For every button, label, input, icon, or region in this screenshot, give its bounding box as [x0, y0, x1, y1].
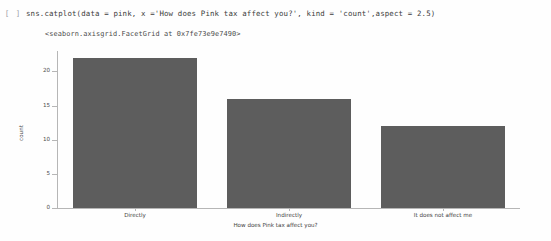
- x-axis-label-text: How does Pink tax affect you?: [0, 222, 551, 228]
- seaborn-catplot-figure: count 05101520 DirectlyIndirectlyIt does…: [0, 46, 551, 241]
- y-tick-label: 5: [8, 171, 50, 177]
- code-source-text: sns.catplot(data = pink, x ='How does Pi…: [26, 9, 435, 18]
- x-tick-label: Indirectly: [229, 212, 349, 218]
- code-input-line[interactable]: [ ] sns.catplot(data = pink, x ='How doe…: [0, 4, 435, 22]
- y-axis-label-text: count: [18, 113, 24, 153]
- notebook-output-cell: [ ] sns.catplot(data = pink, x ='How doe…: [0, 0, 551, 241]
- y-tick-label: 15: [8, 103, 50, 109]
- x-tick-mark: [443, 208, 444, 211]
- y-tick-mark: [52, 106, 57, 107]
- run-cell-button[interactable]: [ ]: [0, 9, 26, 18]
- x-tick-mark: [289, 208, 290, 211]
- y-tick-label: 0: [8, 205, 50, 211]
- x-tick-mark: [135, 208, 136, 211]
- y-axis-spine: [57, 51, 58, 208]
- y-tick-mark: [52, 140, 57, 141]
- x-tick-label: Directly: [75, 212, 195, 218]
- repr-output-text: <seaborn.axisgrid.FacetGrid at 0x7fe73e9…: [45, 30, 240, 38]
- bar: [381, 126, 504, 208]
- x-tick-label: It does not affect me: [383, 212, 503, 218]
- y-tick-mark: [52, 174, 57, 175]
- y-tick-mark: [52, 208, 57, 209]
- y-tick-label: 20: [8, 68, 50, 74]
- bar: [227, 99, 350, 208]
- bar: [73, 58, 196, 208]
- y-tick-label: 10: [8, 137, 50, 143]
- y-tick-mark: [52, 71, 57, 72]
